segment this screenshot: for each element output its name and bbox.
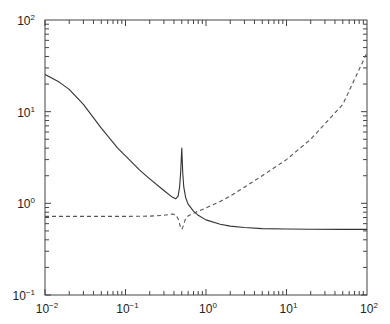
y-tick-label: 102 [17, 13, 35, 28]
tick-labels: 10−210−110010110210−1100101102 [13, 13, 379, 316]
x-tick-label: 101 [280, 301, 298, 316]
log-log-chart: 10−210−110010110210−1100101102 [0, 0, 390, 324]
axis-ticks [45, 20, 367, 295]
y-tick-label: 101 [17, 105, 35, 120]
y-tick-label: 10−1 [13, 288, 36, 303]
x-tick-label: 10−1 [116, 301, 139, 316]
series-solid-line [45, 74, 367, 229]
series-dashed-line [45, 53, 367, 230]
x-tick-label: 102 [360, 301, 378, 316]
plot-axes [45, 20, 367, 295]
x-tick-label: 100 [199, 301, 217, 316]
x-tick-label: 10−2 [36, 301, 59, 316]
plot-frame [45, 20, 367, 295]
data-series [45, 53, 367, 230]
y-tick-label: 100 [17, 196, 35, 211]
